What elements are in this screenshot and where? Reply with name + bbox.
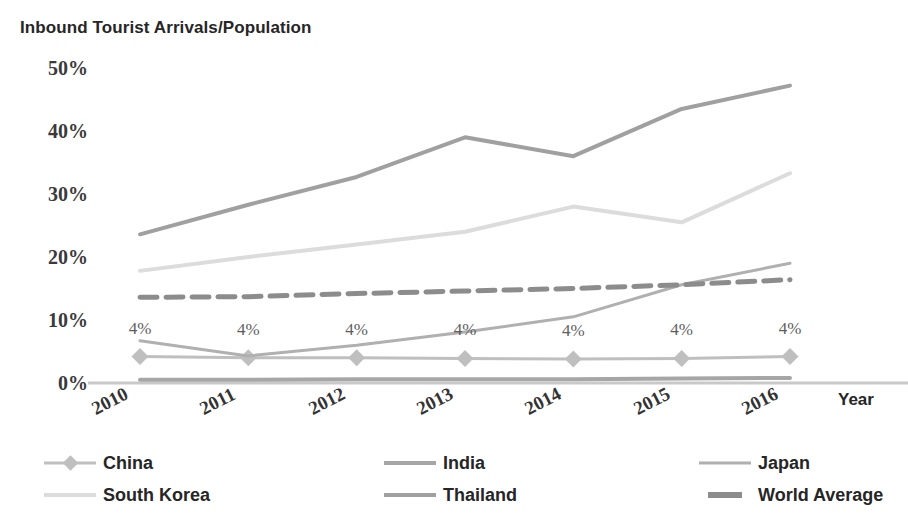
legend-swatch-thailand	[384, 487, 436, 503]
legend-swatch-world-average	[699, 487, 751, 503]
legend-label: Japan	[758, 454, 810, 472]
x-axis-tick-2014: 2014	[521, 383, 565, 420]
x-axis-tick-2015: 2015	[630, 383, 674, 420]
legend-item-thailand[interactable]: Thailand	[384, 482, 517, 508]
legend-marker-diamond-icon	[63, 455, 79, 471]
x-axis-tick-labels: 2010201120122013201420152016	[0, 0, 908, 528]
legend-item-japan[interactable]: Japan	[699, 450, 810, 476]
legend-label: South Korea	[103, 486, 210, 504]
x-axis-tick-2010: 2010	[88, 383, 132, 420]
x-axis-tick-2011: 2011	[196, 383, 239, 419]
legend-swatch-india	[384, 455, 436, 471]
legend-label: Thailand	[443, 486, 517, 504]
legend-swatch-japan	[699, 455, 751, 471]
x-axis-tick-2013: 2013	[413, 383, 457, 420]
x-axis-title: Year	[838, 390, 874, 410]
legend-label: World Average	[758, 486, 883, 504]
chart-container: Inbound Tourist Arrivals/Population 0%10…	[0, 0, 908, 528]
legend-item-south-korea[interactable]: South Korea	[44, 482, 210, 508]
legend-swatch-south-korea	[44, 487, 96, 503]
legend-item-world-average[interactable]: World Average	[699, 482, 883, 508]
x-axis-tick-2012: 2012	[305, 383, 349, 420]
legend-label: India	[443, 454, 485, 472]
legend-swatch-china	[44, 455, 96, 471]
x-axis-tick-2016: 2016	[738, 383, 782, 420]
legend-item-china[interactable]: China	[44, 450, 153, 476]
chart-legend: ChinaIndiaJapanSouth KoreaThailandWorld …	[44, 450, 864, 512]
legend-label: China	[103, 454, 153, 472]
legend-item-india[interactable]: India	[384, 450, 485, 476]
